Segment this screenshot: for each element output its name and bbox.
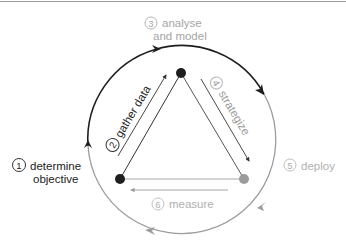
step-3-number: 3 xyxy=(148,18,153,29)
triangle-edge-right xyxy=(181,73,244,179)
step-4-text: strategize xyxy=(216,88,252,137)
step-2-number: 2 xyxy=(106,140,118,150)
step-6-number: 6 xyxy=(155,199,160,210)
step-1-number: 1 xyxy=(16,160,21,171)
step-2-label: 2 gather data xyxy=(104,83,154,154)
ring-arrow-top-icon xyxy=(152,45,161,53)
step-6-text: measure xyxy=(169,198,214,210)
step-5-number: 5 xyxy=(287,160,292,171)
step-1-label: 1 determine objective xyxy=(13,159,82,186)
step-3-text-line2: and model xyxy=(153,30,207,42)
step-6-label: 6 measure xyxy=(152,198,214,210)
vertex-bottom-right-node xyxy=(239,174,249,184)
step-1-text-line2: objective xyxy=(33,173,78,185)
vertex-top-node xyxy=(176,68,186,78)
step-5-label: 5 deploy xyxy=(284,159,335,172)
cycle-arc-gray xyxy=(88,94,276,234)
step-4-label: 4 strategize xyxy=(208,75,252,138)
ring-arrow-lower-right-icon xyxy=(257,202,266,211)
step-5-text: deploy xyxy=(301,160,335,172)
step-1-text-line1: determine xyxy=(30,160,81,172)
step-3-label: 3 analyse and model xyxy=(145,17,207,42)
step-3-text-line1: analyse xyxy=(162,17,202,29)
analytics-cycle-diagram: 3 analyse and model 1 determine objectiv… xyxy=(0,0,346,244)
vertex-bottom-left-node xyxy=(115,174,125,184)
